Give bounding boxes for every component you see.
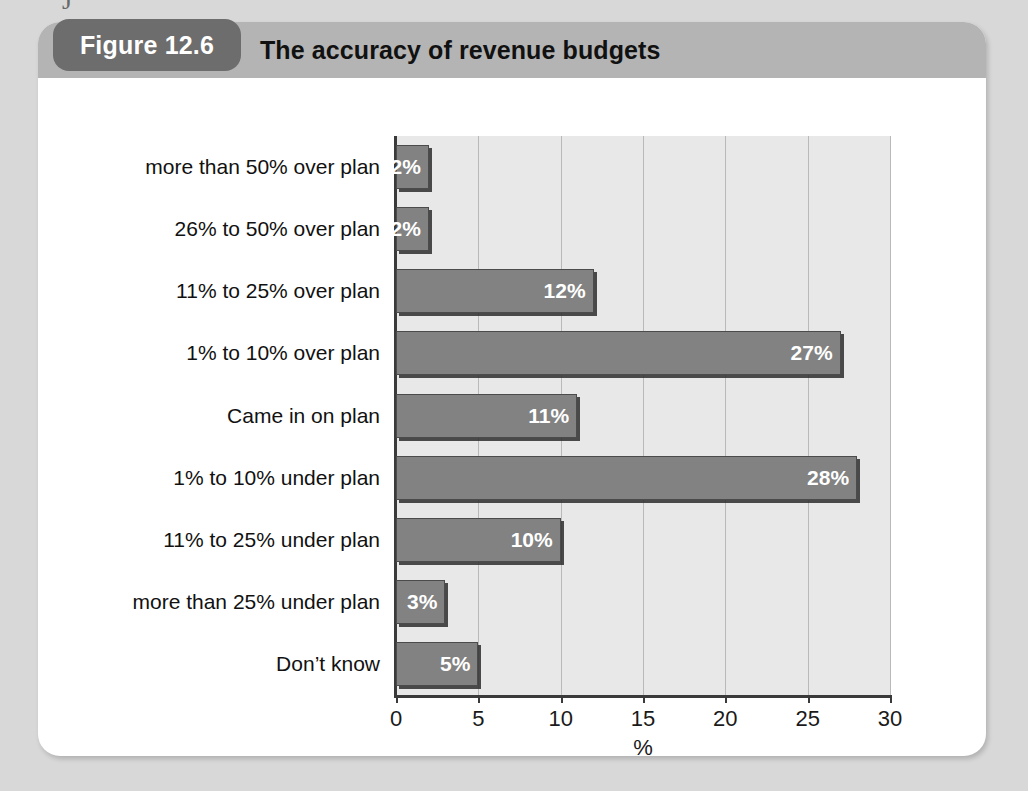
gridline [808, 136, 809, 695]
chart-area: 051015202530 % more than 50% over plan26… [38, 78, 986, 756]
bar-value-label: 12% [544, 279, 593, 303]
x-axis-tick [561, 695, 563, 703]
bar-value-label: 5% [440, 652, 477, 676]
category-label: 1% to 10% over plan [186, 341, 380, 365]
category-label: more than 25% under plan [133, 590, 381, 614]
category-labels: more than 50% over plan26% to 50% over p… [38, 78, 380, 756]
x-axis-tick-label: 25 [795, 706, 819, 732]
category-label: 26% to 50% over plan [175, 217, 380, 241]
category-label: more than 50% over plan [145, 155, 380, 179]
category-label: 11% to 25% under plan [163, 528, 380, 552]
x-axis-tick [890, 695, 892, 703]
x-axis-tick-label: 15 [631, 706, 655, 732]
scan-artifact-glyph: J [62, 0, 72, 16]
category-label: Don’t know [276, 652, 380, 676]
figure-number-badge: Figure 12.6 [53, 19, 241, 71]
category-label: 11% to 25% over plan [176, 279, 380, 303]
x-axis-tick [725, 695, 727, 703]
category-label: Came in on plan [227, 404, 380, 428]
bar-value-label: 10% [511, 528, 560, 552]
bar-value-label: 28% [807, 466, 856, 490]
x-axis-tick [643, 695, 645, 703]
bar[interactable]: 27% [396, 331, 841, 375]
figure-card: Figure 12.6 The accuracy of revenue budg… [38, 22, 986, 756]
x-axis-tick-label: 30 [878, 706, 902, 732]
x-axis-tick [478, 695, 480, 703]
x-axis-tick-label: 20 [713, 706, 737, 732]
bar[interactable]: 12% [396, 269, 594, 313]
x-axis-tick-label: 0 [390, 706, 402, 732]
bar[interactable]: 3% [396, 580, 445, 624]
category-label: 1% to 10% under plan [173, 466, 380, 490]
bar[interactable]: 5% [396, 642, 478, 686]
x-axis-tick-label: 5 [472, 706, 484, 732]
gridline [643, 136, 644, 695]
figure-title: The accuracy of revenue budgets [260, 22, 660, 78]
gridline [725, 136, 726, 695]
x-axis-tick-label: 10 [548, 706, 572, 732]
bar[interactable]: 2% [396, 207, 429, 251]
x-axis-tick [396, 695, 398, 703]
bar[interactable]: 10% [396, 518, 561, 562]
x-axis-title: % [633, 735, 653, 761]
bar-value-label: 11% [528, 404, 576, 428]
bar-value-label: 2% [391, 155, 428, 179]
bar[interactable]: 11% [396, 394, 577, 438]
gridline [890, 136, 891, 695]
bar-value-label: 27% [791, 341, 840, 365]
bar[interactable]: 28% [396, 456, 857, 500]
bar-value-label: 2% [391, 217, 428, 241]
bar[interactable]: 2% [396, 145, 429, 189]
figure-header-bar: Figure 12.6 The accuracy of revenue budg… [38, 22, 986, 78]
x-axis-tick [808, 695, 810, 703]
bar-value-label: 3% [407, 590, 444, 614]
